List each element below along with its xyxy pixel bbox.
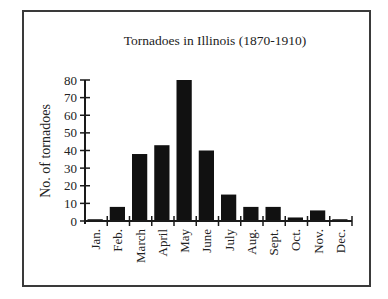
x-tick-label: Aug. — [244, 229, 259, 255]
bar-4 — [177, 80, 192, 221]
x-tick-label: Oct. — [288, 229, 303, 251]
bar-2 — [132, 154, 147, 221]
bar-8 — [266, 207, 281, 221]
y-tick-label: 30 — [64, 161, 77, 176]
bar-3 — [154, 145, 169, 221]
bar-1 — [110, 207, 125, 221]
x-tick-label: Dec. — [333, 229, 348, 253]
x-tick-label: June — [199, 229, 214, 253]
y-tick-label: 10 — [64, 196, 77, 211]
bar-6 — [221, 195, 236, 221]
y-tick-label: 70 — [64, 90, 77, 105]
bar-chart: 01020304050607080Jan.Feb.MarchAprilMayJu… — [0, 0, 388, 299]
x-tick-label: May — [177, 229, 192, 253]
y-tick-label: 20 — [64, 178, 77, 193]
x-tick-label: March — [133, 229, 148, 263]
bar-7 — [243, 207, 258, 221]
y-tick-label: 40 — [64, 143, 77, 158]
y-tick-label: 50 — [64, 125, 77, 140]
x-tick-label: April — [155, 229, 170, 257]
x-tick-label: Feb. — [110, 229, 125, 252]
y-tick-label: 60 — [64, 108, 77, 123]
x-tick-label: Nov. — [311, 229, 326, 254]
x-tick-label: Jan. — [88, 229, 103, 250]
y-tick-label: 0 — [71, 214, 78, 229]
bar-5 — [199, 151, 214, 222]
x-tick-label: Sept. — [266, 229, 281, 255]
bar-10 — [310, 210, 325, 221]
y-tick-label: 80 — [64, 73, 77, 88]
x-tick-label: July — [222, 229, 237, 251]
